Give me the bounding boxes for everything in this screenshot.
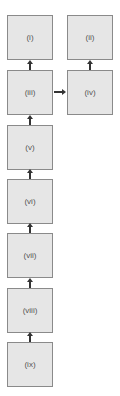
node-ix: (ix) [7, 342, 53, 387]
node-ii: (ii) [67, 15, 113, 60]
node-label: (iv) [84, 88, 95, 97]
arrow-ix-to-viii [29, 335, 31, 342]
arrow-iii-to-iv [54, 91, 63, 93]
arrow-iii-to-i [29, 63, 31, 70]
arrow-v-to-iii [29, 118, 31, 125]
node-i: (i) [7, 15, 53, 60]
node-vi: (vi) [7, 179, 53, 224]
arrow-vii-to-vi [29, 226, 31, 233]
arrow-iv-to-ii [89, 63, 91, 70]
node-label: (iii) [25, 88, 36, 97]
node-label: (v) [25, 143, 34, 152]
arrow-viii-to-vii [29, 281, 31, 288]
node-label: (vi) [24, 197, 35, 206]
node-label: (viii) [23, 306, 38, 315]
node-iv: (iv) [67, 70, 113, 115]
node-iii: (iii) [7, 70, 53, 115]
node-v: (v) [7, 125, 53, 170]
node-label: (i) [26, 33, 33, 42]
arrow-vi-to-v [29, 172, 31, 179]
node-vii: (vii) [7, 233, 53, 278]
node-label: (ix) [24, 360, 35, 369]
node-viii: (viii) [7, 288, 53, 333]
node-label: (ii) [86, 33, 95, 42]
node-label: (vii) [24, 251, 37, 260]
